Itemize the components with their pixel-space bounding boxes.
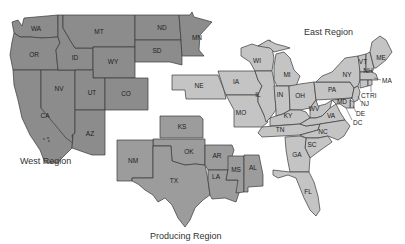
label-ne: NE <box>194 82 204 89</box>
label-ga: GA <box>292 151 302 158</box>
label-ky: KY <box>284 112 293 119</box>
label-vt: VT <box>359 58 367 65</box>
label-co: CO <box>121 90 131 97</box>
label-sd: SD <box>152 47 161 54</box>
state-al[interactable] <box>244 155 263 192</box>
label-mt: MT <box>94 28 103 35</box>
producing-region: KS OK NM TX AR LA MS AL Producing Region <box>117 116 263 241</box>
label-wy: WY <box>108 58 119 65</box>
label-ut: UT <box>88 89 97 96</box>
label-mo: MO <box>236 109 246 116</box>
label-il: IL <box>255 91 261 98</box>
label-id: ID <box>72 54 79 61</box>
label-mi: MI <box>283 71 290 78</box>
label-ar: AR <box>212 152 221 159</box>
label-nc: NC <box>318 128 328 135</box>
label-mn: MN <box>192 34 202 41</box>
label-ms: MS <box>231 166 241 173</box>
label-wa: WA <box>31 25 42 32</box>
us-region-map: WA OR CA NV ID MT WY UT CO AZ ND SD MN W… <box>0 0 405 244</box>
channel-island <box>43 138 45 140</box>
label-tx: TX <box>170 177 179 184</box>
label-me: ME <box>376 54 386 61</box>
label-va: VA <box>327 112 336 119</box>
label-de: DE <box>356 110 366 117</box>
label-sc: SC <box>307 141 316 148</box>
label-nd: ND <box>157 24 167 31</box>
label-fl: FL <box>304 188 312 195</box>
label-md: MD <box>337 98 347 105</box>
label-tn: TN <box>276 126 285 133</box>
label-nj: NJ <box>361 100 369 107</box>
channel-island <box>47 137 49 139</box>
label-la: LA <box>212 173 221 180</box>
label-al: AL <box>249 164 257 171</box>
label-dc: DC <box>353 119 363 126</box>
label-ca: CA <box>40 112 50 119</box>
label-nv: NV <box>54 85 64 92</box>
channel-island <box>48 140 50 142</box>
label-ct: CT <box>361 92 370 99</box>
label-oh: OH <box>295 92 305 99</box>
label-pa: PA <box>328 86 337 93</box>
label-ks: KS <box>178 123 187 130</box>
label-wi: WI <box>253 57 261 64</box>
label-in: IN <box>277 91 284 98</box>
east-region-label: East Region <box>304 27 353 37</box>
label-ia: IA <box>233 78 240 85</box>
label-ny: NY <box>342 71 352 78</box>
label-nm: NM <box>128 157 138 164</box>
label-az: AZ <box>86 130 94 137</box>
label-or: OR <box>29 51 39 58</box>
state-ct[interactable] <box>360 80 368 88</box>
state-fl[interactable] <box>273 170 320 216</box>
producing-region-label: Producing Region <box>150 231 222 241</box>
state-me[interactable] <box>370 36 392 68</box>
state-ri[interactable] <box>368 80 372 86</box>
leader-dc <box>346 108 352 120</box>
west-region-label: West Region <box>20 156 71 166</box>
label-ri: RI <box>370 92 377 99</box>
label-ma: MA <box>382 77 392 84</box>
label-wv: WV <box>309 105 320 112</box>
state-mi[interactable] <box>274 52 300 86</box>
label-nh: NH <box>363 67 373 74</box>
label-ok: OK <box>184 148 194 155</box>
